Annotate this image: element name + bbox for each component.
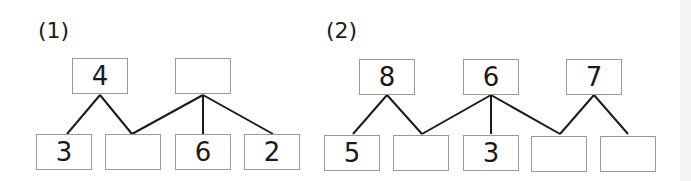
problem-2-top-box-3: 7: [566, 59, 622, 95]
problem-2-bottom-box-3: 3: [463, 135, 519, 171]
problem-1-bottom-box-1: 3: [36, 134, 92, 170]
problem-1-label: (1): [38, 20, 69, 42]
problem-2-bottom-box-4-answer[interactable]: [531, 136, 587, 172]
problem-2-bottom-box-5-answer[interactable]: [600, 136, 656, 172]
problem-1-bottom-box-3: 6: [175, 134, 231, 170]
problem-2-bottom-box-1: 5: [324, 135, 380, 171]
problem-1-bottom-box-4: 2: [244, 134, 300, 170]
problem-1-top-box-2-answer[interactable]: [175, 58, 231, 94]
problem-1-bottom-box-2-answer[interactable]: [105, 134, 161, 170]
problem-2-top-box-1: 8: [359, 59, 415, 95]
problem-2-label: (2): [326, 20, 357, 42]
problem-2-top-box-2: 6: [463, 59, 519, 95]
problem-1-top-box-1: 4: [72, 58, 128, 94]
problem-2-bottom-box-2-answer[interactable]: [393, 135, 449, 171]
